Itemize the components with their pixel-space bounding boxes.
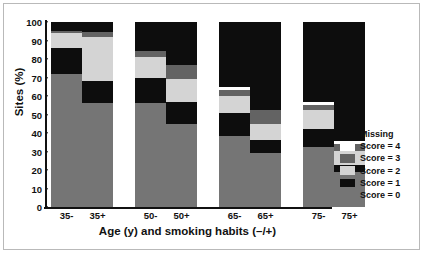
y-axis-tick-label: 100 <box>18 17 42 28</box>
bar-segment <box>166 79 197 102</box>
bar-75-[interactable] <box>303 22 334 207</box>
bar-segment <box>82 32 113 37</box>
y-axis-tick-mark <box>45 169 48 170</box>
bar-segment <box>166 22 197 65</box>
y-axis-tick-label: 30 <box>18 146 42 157</box>
legend-swatch-icon <box>340 142 355 151</box>
bar-segment <box>303 129 334 147</box>
legend: MissingScore = 4Score = 3Score = 2Score … <box>340 128 420 201</box>
bar-segment <box>51 33 82 48</box>
y-axis-tick-labels: 0102030405060708090100 <box>14 22 42 207</box>
bar-segment <box>334 22 365 141</box>
legend-label: Score = 4 <box>360 141 400 151</box>
legend-label: Score = 3 <box>360 153 400 163</box>
bar-segment <box>51 22 82 31</box>
y-axis-tick-mark <box>45 21 48 22</box>
y-axis-tick-mark <box>45 151 48 152</box>
legend-item[interactable]: Score = 0 <box>340 189 420 201</box>
legend-swatch-icon <box>340 130 355 139</box>
bar-segment <box>219 22 250 87</box>
y-axis-tick-label: 80 <box>18 54 42 65</box>
bar-segment <box>135 57 166 77</box>
x-axis-tick-label: 75+ <box>330 210 370 221</box>
y-axis-tick-mark <box>45 114 48 115</box>
legend-swatch-icon <box>340 154 355 163</box>
bar-segment <box>303 102 334 105</box>
bar-65-[interactable] <box>219 22 250 207</box>
bar-segment <box>250 153 281 207</box>
legend-item[interactable]: Missing <box>340 128 420 140</box>
figure-canvas: Sites (%) 0102030405060708090100 Age (y)… <box>0 0 423 253</box>
plot-area <box>45 22 330 207</box>
bar-segment <box>51 48 82 74</box>
legend-item[interactable]: Score = 1 <box>340 177 420 189</box>
legend-swatch-icon <box>340 191 355 200</box>
bar-segment <box>303 105 334 110</box>
legend-item[interactable]: Score = 3 <box>340 152 420 164</box>
bar-segment <box>166 102 197 123</box>
bar-35-[interactable] <box>51 22 82 207</box>
bar-segment <box>250 140 281 153</box>
bar-segment <box>250 110 281 124</box>
legend-label: Score = 2 <box>360 166 400 176</box>
bar-segment <box>250 22 281 110</box>
bar-segment <box>51 31 82 33</box>
bar-segment <box>219 90 250 96</box>
x-axis-line <box>44 207 332 209</box>
bar-segment <box>219 96 250 113</box>
bar-segment <box>303 147 334 207</box>
y-axis-tick-label: 50 <box>18 109 42 120</box>
bar-segment <box>219 87 250 90</box>
x-axis-title: Age (y) and smoking habits (–/+) <box>45 225 330 237</box>
y-axis-tick-mark <box>45 132 48 133</box>
bar-segment <box>135 51 166 57</box>
bar-segment <box>219 136 250 207</box>
legend-item[interactable]: Score = 2 <box>340 165 420 177</box>
bar-segment <box>250 124 281 141</box>
x-axis-tick-label: 35+ <box>78 210 118 221</box>
x-axis-tick-label: 50+ <box>162 210 202 221</box>
legend-label: Score = 1 <box>360 178 400 188</box>
legend-item[interactable]: Score = 4 <box>340 140 420 152</box>
bar-segment <box>303 22 334 102</box>
bar-segment <box>82 22 113 32</box>
y-axis-tick-label: 90 <box>18 35 42 46</box>
bar-segment <box>135 22 166 51</box>
y-axis-tick-mark <box>45 206 48 207</box>
bar-65+[interactable] <box>250 22 281 207</box>
y-axis-tick-mark <box>45 40 48 41</box>
y-axis-tick-label: 60 <box>18 91 42 102</box>
bar-segment <box>51 74 82 207</box>
legend-swatch-icon <box>340 179 355 188</box>
bar-35+[interactable] <box>82 22 113 207</box>
legend-label: Missing <box>360 129 394 139</box>
bar-segment <box>303 110 334 129</box>
y-axis-tick-label: 20 <box>18 165 42 176</box>
y-axis-tick-label: 10 <box>18 183 42 194</box>
bar-50+[interactable] <box>166 22 197 207</box>
y-axis-tick-mark <box>45 58 48 59</box>
legend-label: Score = 0 <box>360 190 400 200</box>
bar-segment <box>135 103 166 207</box>
bar-segment <box>166 65 197 80</box>
bar-segment <box>166 124 197 207</box>
bar-segment <box>135 78 166 104</box>
y-axis-tick-mark <box>45 77 48 78</box>
bar-segment <box>82 37 113 81</box>
bar-segment <box>219 113 250 136</box>
y-axis-tick-mark <box>45 95 48 96</box>
x-axis-tick-label: 65+ <box>246 210 286 221</box>
y-axis-tick-label: 0 <box>18 202 42 213</box>
y-axis-tick-label: 70 <box>18 72 42 83</box>
y-axis-tick-label: 40 <box>18 128 42 139</box>
bar-segment <box>82 103 113 207</box>
bar-50-[interactable] <box>135 22 166 207</box>
legend-swatch-icon <box>340 166 355 175</box>
bar-segment <box>82 81 113 103</box>
y-axis-tick-mark <box>45 188 48 189</box>
